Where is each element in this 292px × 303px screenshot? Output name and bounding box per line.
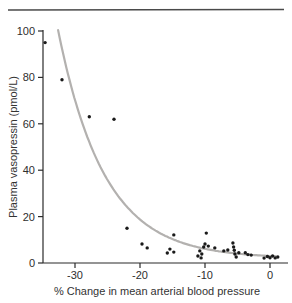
data-point — [198, 249, 201, 252]
data-point — [172, 233, 175, 236]
y-axis-title: Plasma vasopressin (pmol/L) — [7, 76, 19, 218]
data-point — [233, 252, 236, 255]
fitted-curve — [58, 30, 276, 256]
data-point — [237, 251, 240, 254]
vasopressin-scatter-figure: 020406080100 -30-20-100 Plasma vasopress… — [0, 0, 292, 303]
top-rule — [8, 10, 284, 11]
data-point — [262, 256, 265, 259]
x-axis-title: % Change in mean arterial blood pressure — [54, 285, 260, 297]
x-tick-label: 0 — [267, 269, 273, 281]
data-point — [168, 247, 171, 250]
x-tick-label: -20 — [132, 269, 148, 281]
data-point — [146, 246, 149, 249]
data-point — [196, 254, 199, 257]
data-point — [232, 245, 235, 248]
data-point — [199, 256, 202, 259]
data-point — [112, 118, 115, 121]
data-point — [207, 244, 210, 247]
y-axis-ticks: 020406080100 — [17, 25, 43, 269]
scatter-plot: 020406080100 -30-20-100 Plasma vasopress… — [0, 0, 292, 303]
data-point — [172, 250, 175, 253]
data-point — [88, 115, 91, 118]
data-point — [200, 252, 203, 255]
y-tick-label: 80 — [23, 71, 35, 83]
data-point — [231, 241, 234, 244]
data-point — [125, 227, 128, 230]
data-point — [166, 251, 169, 254]
data-point — [140, 242, 143, 245]
data-point — [226, 248, 229, 251]
data-point — [203, 242, 206, 245]
y-tick-label: 100 — [17, 25, 35, 37]
data-point — [250, 253, 253, 256]
y-tick-label: 60 — [23, 118, 35, 130]
data-point — [43, 41, 46, 44]
y-tick-label: 0 — [29, 257, 35, 269]
data-point — [205, 231, 208, 234]
data-point — [213, 246, 216, 249]
x-tick-label: -30 — [67, 269, 83, 281]
data-point — [246, 253, 249, 256]
data-point — [222, 249, 225, 252]
data-point — [202, 245, 205, 248]
data-point — [276, 255, 279, 258]
y-tick-label: 20 — [23, 211, 35, 223]
y-tick-label: 40 — [23, 164, 35, 176]
axes — [43, 30, 288, 263]
data-point — [235, 255, 238, 258]
x-axis-ticks: -30-20-100 — [67, 263, 273, 281]
data-point — [60, 78, 63, 81]
data-point — [233, 249, 236, 252]
x-tick-label: -10 — [197, 269, 213, 281]
data-points — [43, 41, 279, 260]
